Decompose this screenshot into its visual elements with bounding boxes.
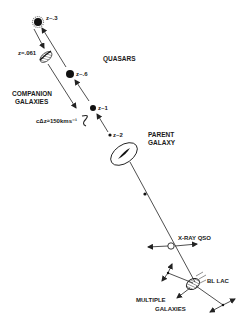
arm-lower-right-arrow-down [210,305,223,312]
label-companion-line2: GALAXIES [15,98,49,105]
label-companion-line1: COMPANION [12,90,52,97]
parent-galaxy [107,138,142,170]
label-multiple-line1: MULTIPLE [136,297,166,303]
multiple-galaxy-dot-right [222,304,224,306]
label-z06: z~.6 [76,71,88,77]
arm-upper-left-arrow-down [162,273,168,281]
intermediate-object-dot [143,192,146,195]
bl-lac-object [184,272,206,292]
arm-lower-left-arrow [177,288,190,298]
xray-qso-arrow-left [148,246,168,247]
arrow-companion-upper [34,29,44,48]
label-z1: z~1 [98,105,109,111]
quasar-z03-dot [34,18,42,26]
quasar-z1-dot [90,105,96,111]
arm-lower-right [196,286,223,305]
ejection-line-lower [130,162,195,282]
arm-upper-left-arrow-up [168,264,172,273]
label-xray-qso: X-RAY QSO [178,235,211,241]
quasar-ejection-diagram: z~.3 z=.061 z~.6 QUASARS COMPANION GALAX… [0,0,247,322]
label-parent-line2: GALAXY [148,139,176,146]
velocity-squiggle-icon [82,115,87,126]
quasar-z06-dot [66,70,74,78]
label-parent-line1: PARENT [148,131,174,138]
multiple-galaxy-dot-left [167,272,169,274]
label-z061: z=.061 [18,50,37,56]
arrow-z1-to-z06 [75,80,89,101]
quasar-z2-dot [108,133,111,136]
companion-galaxy-z061 [38,49,54,64]
label-velocity: cΔz≈150kms⁻¹ [36,118,77,124]
xray-qso-arrow-right [175,244,197,246]
label-bl-lac: BL LAC [207,278,230,284]
arrow-z2-to-z1 [97,114,108,132]
label-z03: z~.3 [46,15,58,21]
xray-qso-circle [168,243,174,249]
label-multiple-line2: GALAXIES [155,306,186,312]
label-z2: z~2 [113,132,124,138]
label-quasars: QUASARS [103,55,136,63]
arm-lower-right-arrow-up [223,299,235,305]
